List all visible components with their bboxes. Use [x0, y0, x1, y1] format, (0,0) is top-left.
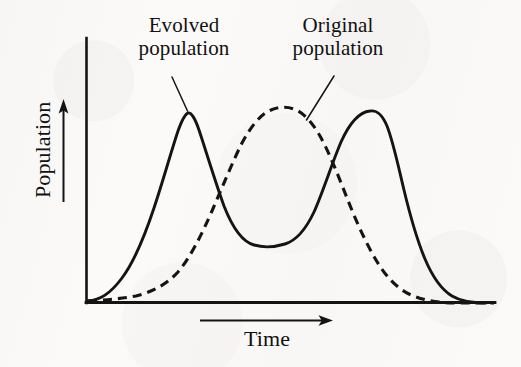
original-population-label-line1: Original	[268, 14, 408, 37]
up-arrow-icon	[59, 99, 69, 202]
x-axis-label: Time	[206, 327, 328, 351]
evolved-population-curve	[88, 111, 486, 303]
original-population-label-line2: population	[268, 37, 408, 60]
evolved-leader-line	[172, 77, 188, 111]
original-population-label: Original population	[268, 14, 408, 59]
evolved-population-label-line1: Evolved	[118, 14, 250, 37]
original-leader-line	[307, 76, 335, 120]
right-arrow-icon	[200, 315, 333, 326]
evolved-population-label-line2: population	[118, 37, 250, 60]
population-curves-figure: Evolved population Original population T…	[0, 0, 521, 367]
plot-canvas	[0, 0, 521, 367]
evolved-population-label: Evolved population	[118, 14, 250, 59]
y-axis-label: Population	[31, 85, 55, 215]
